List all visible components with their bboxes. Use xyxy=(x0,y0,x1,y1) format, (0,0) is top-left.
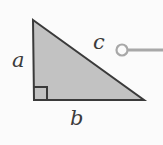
leg-b-label: b xyxy=(70,108,83,129)
right-triangle-shape xyxy=(33,20,144,100)
circle-handle-icon[interactable] xyxy=(117,45,128,56)
right-triangle-figure: a b c xyxy=(0,0,163,145)
hypotenuse-c-label: c xyxy=(93,32,105,53)
leg-a-label: a xyxy=(12,50,25,71)
